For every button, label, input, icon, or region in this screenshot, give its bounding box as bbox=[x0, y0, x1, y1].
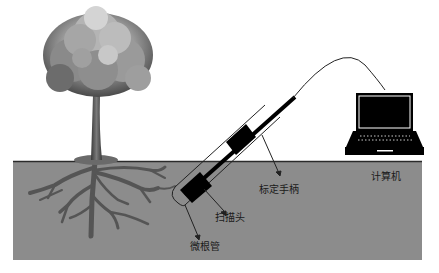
label-computer: 计算机 bbox=[371, 171, 401, 183]
label-scan-head: 扫描头 bbox=[215, 212, 245, 224]
laptop-icon bbox=[345, 93, 424, 155]
tree-icon bbox=[43, 6, 153, 165]
label-minirhizotron-tube: 微根管 bbox=[190, 241, 220, 253]
label-calibration-handle: 标定手柄 bbox=[259, 184, 299, 196]
diagram-canvas bbox=[0, 0, 439, 273]
cable-icon bbox=[293, 57, 385, 98]
